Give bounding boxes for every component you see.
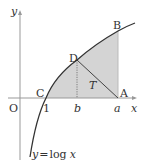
point-a-label: A xyxy=(119,87,129,100)
eq-x: x xyxy=(70,148,77,161)
eq-y: y xyxy=(31,148,39,161)
tick-one-label: 1 xyxy=(43,102,50,115)
origin-label: O xyxy=(9,102,18,115)
log-graph-diagram: y O x C 1 D b B A a T y=logx xyxy=(0,0,146,167)
x-axis-label: x xyxy=(131,102,138,115)
y-axis-arrow-icon xyxy=(18,10,22,15)
point-c-label: C xyxy=(36,87,44,100)
eq-log: log xyxy=(49,148,66,161)
eq-sign: = xyxy=(39,148,48,161)
tick-b-label: b xyxy=(74,102,81,115)
point-b-label: B xyxy=(113,19,121,32)
curve-equation-label: y=logx xyxy=(31,148,77,161)
x-axis-arrow-icon xyxy=(132,96,137,100)
point-d-label: D xyxy=(69,52,78,65)
tick-a-label: a xyxy=(114,102,121,115)
y-axis-label: y xyxy=(10,5,18,18)
